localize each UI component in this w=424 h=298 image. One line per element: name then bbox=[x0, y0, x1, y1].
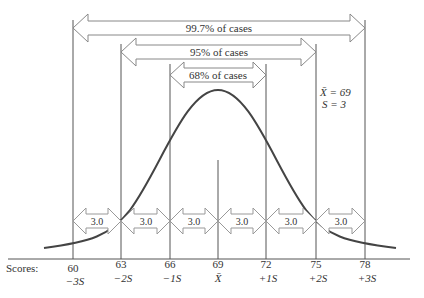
label-99-7: 99.7% of cases bbox=[186, 22, 252, 34]
sd-label: S = 3 bbox=[322, 98, 346, 110]
sd-mark: −1S bbox=[163, 272, 182, 284]
sd-mark: −3S bbox=[66, 275, 85, 287]
score-tick: 60 bbox=[68, 262, 80, 274]
interval-label: 3.0 bbox=[140, 216, 153, 227]
interval-label: 3.0 bbox=[335, 216, 348, 227]
sd-mark: X̄ bbox=[214, 272, 223, 284]
score-tick: 66 bbox=[165, 258, 177, 270]
sd-mark: +2S bbox=[309, 272, 328, 284]
score-tick: 72 bbox=[261, 258, 272, 270]
sd-mark: −2S bbox=[114, 272, 133, 284]
mean-label: X̄ = 69 bbox=[319, 86, 351, 98]
interval-label: 3.0 bbox=[91, 216, 104, 227]
sd-mark: +1S bbox=[259, 272, 278, 284]
label-68: 68% of cases bbox=[189, 69, 247, 81]
scores-label: Scores: bbox=[6, 262, 38, 274]
interval-label: 3.0 bbox=[188, 216, 201, 227]
score-tick: 75 bbox=[311, 258, 323, 270]
score-tick: 78 bbox=[360, 258, 372, 270]
score-tick: 63 bbox=[116, 258, 128, 270]
sd-mark: +3S bbox=[358, 272, 377, 284]
interval-label: 3.0 bbox=[236, 216, 249, 227]
label-95: 95% of cases bbox=[190, 46, 248, 58]
interval-arrows bbox=[73, 208, 365, 234]
interval-label: 3.0 bbox=[285, 216, 298, 227]
normal-distribution-diagram: 99.7% of cases 95% of cases 68% of cases… bbox=[0, 0, 424, 298]
score-tick: 69 bbox=[213, 258, 225, 270]
